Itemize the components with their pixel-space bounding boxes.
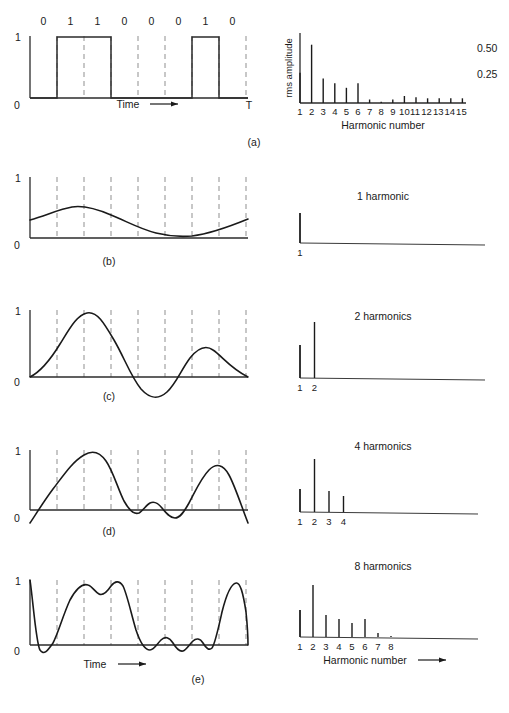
- bit-label: 0: [176, 15, 182, 27]
- bit-label: 0: [41, 15, 47, 27]
- panel-d-curve: [30, 452, 248, 523]
- panel-b-harmonic-caption: 1 harmonic: [357, 190, 409, 202]
- panel-a-spectrum: 1 2 3 4 5 6 7 8 9 10 11 12 13 14 15 Harm…: [283, 33, 498, 131]
- panel-c-spectrum: 1 2 2 harmonics: [297, 310, 485, 393]
- harmonic-tick-label: 1: [297, 382, 302, 393]
- panel-a-bit-labels: 0 1 1 0 0 0 1 0: [41, 15, 236, 27]
- panel-a-x-label-period: T: [246, 99, 253, 111]
- panel-a-y-label-one: 1: [15, 31, 21, 43]
- harmonic-tick-label: 4: [336, 641, 341, 652]
- harmonic-tick-label: 13: [433, 106, 444, 117]
- harmonic-tick-label: 15: [456, 106, 467, 117]
- harmonic-tick-label: 9: [390, 106, 395, 117]
- panel-letter-e: (e): [192, 673, 205, 685]
- harmonic-tick-label: 1: [297, 106, 302, 117]
- panel-d-waveform: 1 0: [14, 445, 248, 524]
- harmonic-tick-label: 6: [362, 641, 367, 652]
- panel-c-y-label-zero: 0: [14, 376, 20, 388]
- amplitude-tick-050: 0.50: [477, 42, 498, 54]
- spectrum-c-x-axis: [300, 378, 485, 380]
- panel-a-time-arrow-icon: [150, 102, 178, 107]
- harmonic-tick-label: 4: [341, 516, 346, 527]
- bit-label: 0: [230, 15, 236, 27]
- bit-label: 1: [203, 15, 209, 27]
- panel-d-y-label-one: 1: [15, 445, 21, 457]
- harmonic-tick-label: 5: [349, 641, 354, 652]
- bit-label: 0: [149, 15, 155, 27]
- harmonic-tick-label: 8: [379, 106, 384, 117]
- panel-letter-c: (c): [103, 390, 115, 402]
- panel-a-x-axis-title: Time: [117, 98, 140, 110]
- bit-label: 1: [68, 15, 74, 27]
- panel-e-waveform: 1 0 Time: [14, 575, 248, 670]
- harmonic-tick-label: 2: [312, 516, 317, 527]
- harmonic-tick-label: 3: [323, 641, 328, 652]
- spectrum-a-y-axis-title: rms amplitude: [283, 38, 294, 98]
- spectrum-e-x-axis-title: Harmonic number: [323, 654, 407, 666]
- panel-a-gridlines: [57, 36, 246, 98]
- harmonic-tick-label: 5: [344, 106, 349, 117]
- panel-e-harmonic-caption: 8 harmonics: [354, 560, 411, 572]
- spectrum-b-x-axis: [300, 243, 485, 245]
- harmonic-tick-label: 3: [326, 516, 331, 527]
- panel-c-gridlines: [57, 310, 246, 377]
- panel-b-waveform: 1 0: [14, 172, 248, 251]
- spectrum-d-x-axis: [300, 512, 478, 514]
- panel-e-time-arrow-icon: [118, 662, 146, 667]
- spectrum-a-bars: [300, 45, 462, 103]
- harmonic-tick-label: 4: [332, 106, 337, 117]
- panel-e-gridlines: [57, 580, 246, 645]
- panel-b-y-label-one: 1: [15, 172, 21, 184]
- harmonic-tick-label: 3: [321, 106, 326, 117]
- panel-e-spectrum: 1 2 3 4 5 6 7 8 Harmonic number 8 harmon…: [297, 560, 478, 666]
- panel-b-spectrum: 1 1 harmonic: [297, 190, 485, 258]
- panel-c-y-label-one: 1: [15, 305, 21, 317]
- harmonic-tick-label: 7: [367, 106, 372, 117]
- panel-b-curve: [30, 206, 248, 236]
- harmonic-tick-label: 10: [399, 106, 410, 117]
- panel-c-waveform: 1 0: [14, 305, 248, 397]
- harmonic-tick-label: 7: [375, 641, 380, 652]
- harmonic-tick-label: 1: [297, 641, 302, 652]
- panel-b-y-label-zero: 0: [14, 239, 20, 251]
- harmonic-tick-label: 14: [445, 106, 456, 117]
- panel-d-spectrum: 1 2 3 4 4 harmonics: [297, 440, 478, 527]
- panel-c-curve: [30, 313, 248, 398]
- harmonic-tick-label: 2: [309, 106, 314, 117]
- panel-e-y-label-zero: 0: [14, 645, 20, 657]
- harmonic-tick-label: 12: [421, 106, 432, 117]
- panel-d-gridlines: [57, 450, 246, 510]
- harmonic-tick-label: 8: [388, 641, 393, 652]
- panel-e-curve: [30, 580, 248, 652]
- harmonic-tick-label: 2: [310, 641, 315, 652]
- panel-letter-a: (a): [248, 136, 261, 148]
- harmonic-tick-label: 1: [297, 247, 302, 258]
- panel-d-harmonic-caption: 4 harmonics: [354, 440, 411, 452]
- panel-a-y-label-zero: 0: [14, 99, 20, 111]
- panel-letter-d: (d): [103, 525, 116, 537]
- spectrum-a-tick-labels: 1 2 3 4 5 6 7 8 9 10 11 12 13 14 15: [297, 106, 466, 117]
- spectrum-e-harmonic-arrow-icon: [418, 658, 446, 663]
- harmonic-tick-label: 2: [312, 382, 317, 393]
- figure-svg: 1 0 T Time 0 1 1 0 0 0 1 0: [0, 0, 509, 713]
- harmonic-tick-label: 1: [297, 516, 302, 527]
- harmonic-tick-label: 11: [410, 106, 420, 117]
- figure-container: 1 0 T Time 0 1 1 0 0 0 1 0: [0, 0, 509, 713]
- spectrum-e-x-axis: [300, 637, 478, 639]
- panel-a-waveform: 1 0 T Time 0 1 1 0 0 0 1 0: [14, 15, 253, 111]
- bit-label: 1: [95, 15, 101, 27]
- spectrum-a-x-axis-title: Harmonic number: [341, 119, 425, 131]
- panel-e-x-axis-title: Time: [84, 658, 107, 670]
- harmonic-tick-label: 6: [355, 106, 360, 117]
- panel-a-square-wave: [30, 37, 248, 98]
- panel-c-harmonic-caption: 2 harmonics: [354, 310, 411, 322]
- panel-letter-b: (b): [103, 255, 116, 267]
- bit-label: 0: [122, 15, 128, 27]
- panel-d-y-label-zero: 0: [14, 512, 20, 524]
- panel-e-y-label-one: 1: [15, 575, 21, 587]
- amplitude-tick-025: 0.25: [477, 68, 498, 80]
